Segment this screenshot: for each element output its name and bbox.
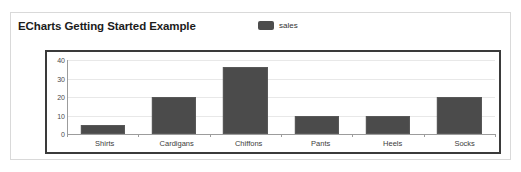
x-tick-label: Shirts bbox=[95, 139, 114, 148]
x-label-slot: Heels bbox=[355, 52, 430, 152]
x-label-slot: Chiffons bbox=[211, 52, 286, 152]
x-tick-label: Cardigans bbox=[160, 139, 194, 148]
x-tick-label: Socks bbox=[454, 139, 474, 148]
x-tick-label: Pants bbox=[311, 139, 330, 148]
chart-legend: sales bbox=[258, 21, 298, 30]
x-tick-label: Chiffons bbox=[235, 139, 262, 148]
legend-item-label: sales bbox=[279, 21, 298, 30]
legend-swatch-icon bbox=[258, 21, 274, 30]
x-axis: ShirtsCardigansChiffonsPantsHeelsSocks bbox=[47, 52, 499, 152]
chart-header: ECharts Getting Started Example sales bbox=[11, 13, 510, 45]
x-label-slot: Shirts bbox=[67, 52, 142, 152]
plot-frame: 010203040 ShirtsCardigansChiffonsPantsHe… bbox=[45, 50, 501, 154]
x-tick-label: Heels bbox=[383, 139, 402, 148]
x-label-slot: Socks bbox=[427, 52, 502, 152]
x-label-slot: Pants bbox=[283, 52, 358, 152]
page-title: ECharts Getting Started Example bbox=[18, 20, 196, 32]
plot-area: 010203040 ShirtsCardigansChiffonsPantsHe… bbox=[47, 52, 499, 152]
chart-card: ECharts Getting Started Example sales 01… bbox=[10, 12, 511, 160]
x-label-slot: Cardigans bbox=[139, 52, 214, 152]
legend-item-sales[interactable]: sales bbox=[258, 21, 298, 30]
